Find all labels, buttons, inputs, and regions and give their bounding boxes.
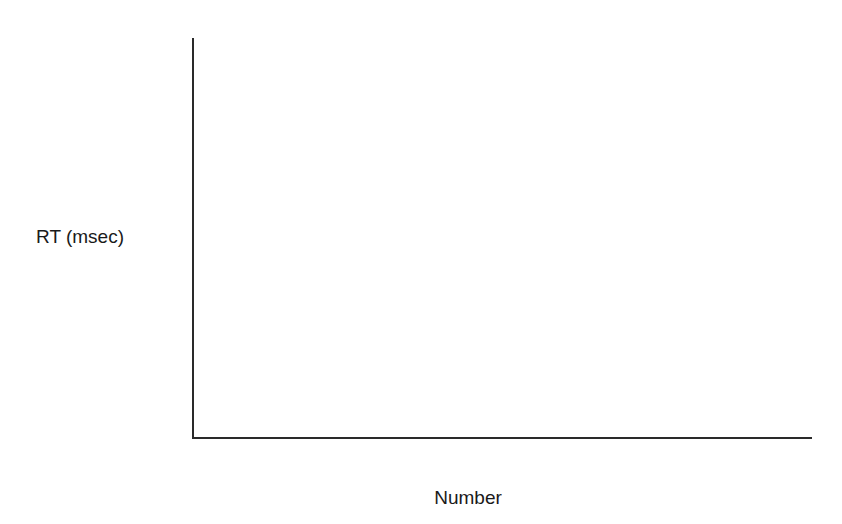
line-chart-canvas: RT (msec) Number [0,0,842,524]
axes-group [193,38,812,438]
axis-lines [193,38,812,438]
x-axis-title: Number [434,487,502,508]
y-axis-title: RT (msec) [36,226,124,247]
chart-figure: RT (msec) Number [0,0,842,524]
